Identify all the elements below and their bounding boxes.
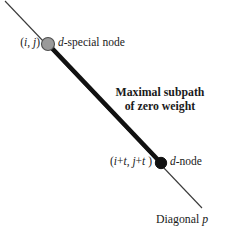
d-node-coordinate-label: (i+t, j+t )	[78, 156, 152, 168]
subpath-caption-line-1: Maximal subpath	[113, 86, 207, 100]
diagonal-variable-p: p	[202, 212, 208, 226]
d-special-node-type-label: d-special node	[58, 37, 125, 49]
d-special-node-coordinate-label: (i, j)	[0, 37, 40, 49]
figure-canvas: (i, j) d-special node (i+t, j+t ) d-node…	[0, 0, 230, 233]
diagonal-label: Diagonal p	[156, 213, 208, 225]
d-special-node-marker	[42, 38, 55, 51]
subpath-caption-line-2: of zero weight	[113, 100, 207, 114]
paren-close: )	[145, 155, 152, 167]
d-node-marker	[155, 157, 166, 168]
subpath-caption: Maximal subpath of zero weight	[113, 86, 207, 114]
diagonal-label-text: Diagonal	[156, 212, 199, 226]
d-node-text: -node	[176, 155, 202, 167]
d-special-node-text: -special node	[64, 36, 125, 48]
figure-vector-layer	[0, 0, 230, 233]
d-node-type-label: d-node	[170, 156, 202, 168]
paren-close: )	[36, 36, 40, 48]
